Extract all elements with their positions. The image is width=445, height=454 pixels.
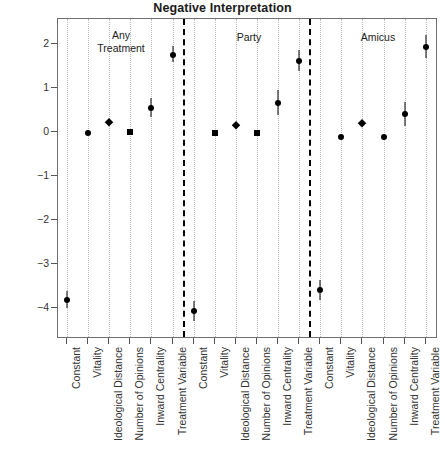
y-axis-tick-label: −4 [37, 301, 49, 313]
grid-line [194, 19, 195, 337]
data-point-marker [275, 100, 281, 106]
x-axis-tick [404, 338, 405, 344]
data-point-marker [85, 130, 91, 136]
x-axis-tick-label: Vitality [218, 347, 230, 378]
data-point-marker [358, 119, 366, 127]
data-point-marker [296, 58, 302, 64]
y-axis-tick [51, 219, 57, 220]
x-axis-tick [235, 338, 236, 344]
data-point-marker [423, 44, 429, 50]
grid-line [236, 19, 237, 337]
y-axis-tick-label: 2 [43, 37, 49, 49]
chart-figure: Negative Interpretation Parameter Estima… [0, 0, 445, 454]
x-axis-tick-label: Treatment Variable [176, 347, 188, 435]
x-axis-tick [108, 338, 109, 344]
grid-line [67, 19, 68, 337]
x-axis-tick-label: Inward Centrality [154, 347, 166, 426]
x-axis-tick-label: Number of Opinions [260, 347, 272, 440]
x-axis-tick [361, 338, 362, 344]
grid-line [173, 19, 174, 337]
y-axis-tick [51, 263, 57, 264]
x-axis-tick-label: Inward Centrality [408, 347, 420, 426]
grid-line [257, 19, 258, 337]
x-axis-tick [87, 338, 88, 344]
data-point-marker [254, 130, 260, 136]
x-axis-tick-label: Number of Opinions [133, 347, 145, 440]
x-axis-tick [425, 338, 426, 344]
grid-line [88, 19, 89, 337]
grid-line [362, 19, 363, 337]
x-axis-tick-label: Ideological Distance [365, 347, 377, 441]
x-axis-tick [340, 338, 341, 344]
data-point-marker [338, 134, 344, 140]
grid-line [130, 19, 131, 337]
grid-line [151, 19, 152, 337]
x-axis-tick-label: Constant [70, 347, 82, 389]
y-axis-tick-label: −2 [37, 213, 49, 225]
grid-line [426, 19, 427, 337]
data-point-marker [105, 118, 113, 126]
x-axis-tick-label: Vitality [91, 347, 103, 378]
x-axis-tick [129, 338, 130, 344]
y-axis-tick-label: 0 [43, 125, 49, 137]
data-point-marker [127, 129, 133, 135]
y-axis-tick-label: −1 [37, 169, 49, 181]
grid-line [405, 19, 406, 337]
x-axis-tick-label: Number of Opinions [387, 347, 399, 440]
x-axis-tick [256, 338, 257, 344]
grid-line [384, 19, 385, 337]
data-point-marker [381, 134, 387, 140]
data-point-marker [232, 121, 240, 129]
x-axis-tick [193, 338, 194, 344]
x-axis-tick-label: Ideological Distance [112, 347, 124, 441]
x-axis-tick [277, 338, 278, 344]
chart-title: Negative Interpretation [0, 1, 445, 15]
x-axis-tick [298, 338, 299, 344]
data-point-marker [402, 111, 408, 117]
plot-area: Any TreatmentPartyAmicus [57, 18, 437, 338]
x-axis-tick-label: Constant [197, 347, 209, 389]
y-axis-tick [51, 131, 57, 132]
data-point-marker [148, 105, 154, 111]
grid-line [278, 19, 279, 337]
data-point-marker [191, 308, 197, 314]
grid-line [109, 19, 110, 337]
x-axis-tick [150, 338, 151, 344]
x-axis-tick-label: Vitality [344, 347, 356, 378]
y-axis-tick [51, 307, 57, 308]
y-axis-tick [51, 87, 57, 88]
data-point-marker [170, 52, 176, 58]
x-axis-tick [383, 338, 384, 344]
panel-divider [309, 19, 311, 337]
grid-line [215, 19, 216, 337]
x-axis-tick-label: Ideological Distance [239, 347, 251, 441]
panel-label-party: Party [237, 31, 262, 44]
y-axis-tick-label: 1 [43, 81, 49, 93]
x-axis-tick [66, 338, 67, 344]
y-axis-tick [51, 43, 57, 44]
y-axis-tick [51, 175, 57, 176]
x-axis-tick-label: Treatment Variable [429, 347, 441, 435]
x-axis-tick-label: Inward Centrality [281, 347, 293, 426]
panel-divider [183, 19, 185, 337]
x-axis-tick [319, 338, 320, 344]
x-axis-tick [214, 338, 215, 344]
data-point-marker [212, 130, 218, 136]
x-axis-tick-label: Treatment Variable [302, 347, 314, 435]
panel-label-amicus: Amicus [361, 31, 395, 44]
y-axis-tick-label: −3 [37, 257, 49, 269]
grid-line [341, 19, 342, 337]
data-point-marker [64, 297, 70, 303]
panel-label-any-treatment: Any Treatment [97, 29, 144, 54]
x-axis-tick-label: Constant [323, 347, 335, 389]
x-axis-tick [172, 338, 173, 344]
data-point-marker [317, 287, 323, 293]
